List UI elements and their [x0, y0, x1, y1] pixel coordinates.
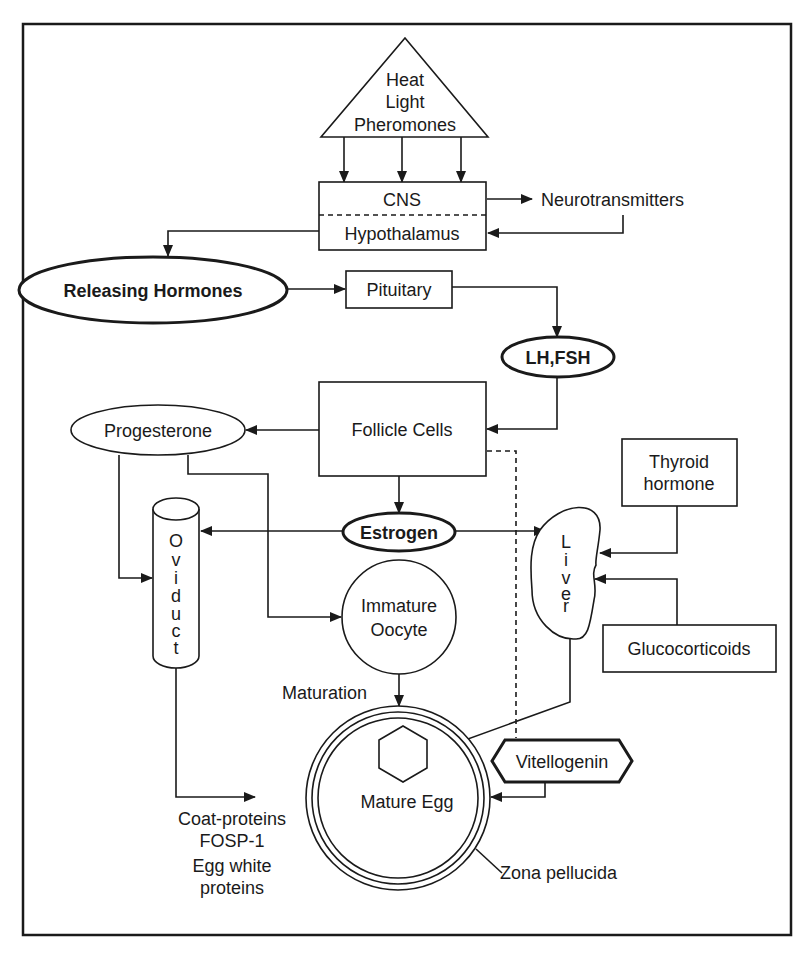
egg-white-label: Egg white — [192, 856, 271, 876]
mature-egg-label: Mature Egg — [360, 792, 453, 812]
vitellogenin-node: Vitellogenin — [492, 740, 632, 782]
arrow-lhfsh-follicle — [487, 378, 557, 429]
immature-oocyte-node: Immature Oocyte — [342, 560, 456, 674]
arrow-pituitary-lhfsh — [452, 287, 557, 337]
oviduct-node: O v i d u c t — [153, 498, 199, 668]
cns-label: CNS — [383, 190, 421, 210]
liver-letter: L — [561, 532, 571, 552]
vitellogenin-label: Vitellogenin — [516, 752, 609, 772]
liver-node: L i v e r — [531, 507, 600, 639]
stimulus-light: Light — [385, 92, 424, 112]
progesterone-label: Progesterone — [104, 421, 212, 441]
hypothalamus-label: Hypothalamus — [344, 224, 459, 244]
estrogen-label: Estrogen — [360, 523, 438, 543]
pituitary-label: Pituitary — [366, 280, 431, 300]
oviduct-letter: v — [172, 550, 181, 570]
stimulus-pheromones: Pheromones — [354, 115, 456, 135]
arrow-neurotransmitters-hypothalamus — [488, 215, 623, 233]
mature-egg-node: Mature Egg — [306, 706, 490, 890]
diagram-canvas: Heat Light Pheromones CNS Hypothalamus N… — [0, 0, 804, 954]
releasing-hormones-label: Releasing Hormones — [63, 281, 242, 301]
glucocorticoids-node: Glucocorticoids — [603, 625, 776, 672]
coat-proteins-label-group: Coat-proteins FOSP-1 Egg white proteins — [178, 809, 286, 898]
arrow-progesterone-oocyte — [188, 455, 341, 617]
neurotransmitters-label: Neurotransmitters — [541, 190, 684, 210]
oviduct-letter: d — [171, 586, 181, 606]
arrow-glucocorticoids-liver — [595, 579, 677, 625]
zona-pellucida-label: Zona pellucida — [500, 863, 618, 883]
glucocorticoids-label: Glucocorticoids — [627, 639, 750, 659]
arrow-hypothalamus-releasing — [168, 231, 319, 256]
releasing-hormones-node: Releasing Hormones — [19, 257, 287, 323]
thyroid-hormone-node: Thyroid hormone — [622, 439, 737, 506]
pituitary-node: Pituitary — [346, 271, 452, 308]
fosp-1-label: FOSP-1 — [199, 831, 264, 851]
cns-hypothalamus-box: CNS Hypothalamus — [319, 182, 486, 250]
arrow-progesterone-oviduct — [119, 455, 152, 578]
proteins-label: proteins — [200, 878, 264, 898]
arrow-oviduct-egg — [176, 668, 255, 797]
estrogen-node: Estrogen — [343, 513, 455, 551]
liver-letter: i — [564, 550, 568, 570]
arrow-vitellogenin-egg — [491, 783, 545, 797]
progesterone-node: Progesterone — [71, 405, 245, 455]
oviduct-letter: t — [173, 638, 178, 658]
stimuli-triangle: Heat Light Pheromones — [321, 38, 488, 137]
arrow-thyroid-liver — [600, 506, 677, 553]
stimulus-heat: Heat — [386, 70, 424, 90]
oviduct-letter: i — [174, 568, 178, 588]
dashed-follicle-egg — [487, 451, 516, 738]
oviduct-letter: O — [169, 531, 183, 551]
thyroid-label-1: Thyroid — [649, 452, 709, 472]
follicle-cells-node: Follicle Cells — [319, 382, 486, 476]
lh-fsh-node: LH,FSH — [502, 337, 614, 377]
maturation-label: Maturation — [282, 683, 367, 703]
thyroid-label-2: hormone — [643, 474, 714, 494]
liver-letter: r — [563, 596, 569, 616]
immature-label: Immature — [361, 596, 437, 616]
follicle-cells-label: Follicle Cells — [351, 420, 452, 440]
coat-proteins-label: Coat-proteins — [178, 809, 286, 829]
oocyte-label: Oocyte — [370, 620, 427, 640]
zona-pellucida-leader — [476, 849, 502, 873]
lh-fsh-label: LH,FSH — [526, 348, 591, 368]
